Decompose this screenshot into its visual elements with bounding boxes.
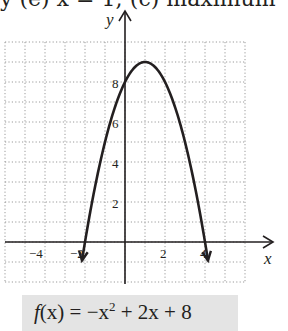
tick-labels: −4 −2 2 4 2 4 6 8 — [29, 76, 207, 261]
equation-text: f(x) = −x2 + 2x + 8 — [34, 299, 192, 325]
eq-rest: = −x — [64, 300, 109, 324]
x-axis-label: x — [263, 249, 272, 268]
x-tick-label: 2 — [160, 246, 167, 261]
y-tick-label: 4 — [112, 156, 119, 171]
quadratic-graph: x y −4 −2 2 4 2 4 6 8 — [0, 0, 288, 331]
y-axis-label: y — [104, 10, 114, 29]
eq-tail: + 2x + 8 — [116, 300, 192, 324]
y-tick-label: 2 — [112, 196, 119, 211]
equation-box: f(x) = −x2 + 2x + 8 — [22, 295, 238, 331]
y-tick-label: 8 — [112, 76, 119, 91]
x-tick-label: −4 — [29, 246, 43, 261]
y-tick-label: 6 — [112, 116, 119, 131]
eq-paren: (x) — [40, 300, 65, 324]
curve-arrowheads — [79, 251, 211, 261]
